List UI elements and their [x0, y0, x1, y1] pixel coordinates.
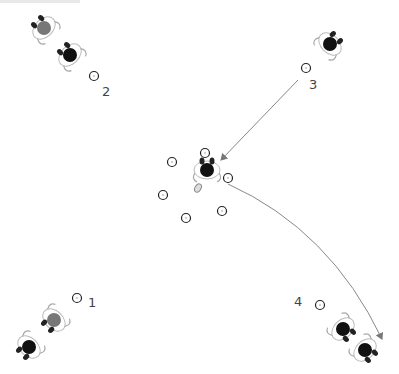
cone-icon	[302, 64, 311, 73]
cone-icon	[218, 207, 227, 216]
cone-icon	[224, 174, 233, 183]
player-icon	[36, 302, 73, 339]
player-icon	[347, 332, 384, 369]
player-icon	[312, 26, 349, 63]
run-arrow	[228, 184, 382, 339]
cone-icon	[316, 301, 325, 310]
player-icon	[11, 329, 48, 366]
player-icon	[193, 158, 220, 183]
player-icon	[325, 311, 362, 348]
player-icon	[52, 37, 89, 74]
cone-icon	[90, 72, 99, 81]
ball-icon	[193, 183, 203, 194]
cone-icon	[168, 158, 177, 167]
drill-field	[0, 0, 399, 374]
cone-icon	[73, 294, 82, 303]
cone-icon	[159, 191, 168, 200]
position-label-4: 4	[294, 295, 302, 308]
position-label-1: 1	[88, 296, 96, 309]
cone-icon	[201, 149, 210, 158]
cone-icon	[182, 214, 191, 223]
pass-arrow	[221, 80, 298, 160]
position-label-2: 2	[102, 85, 110, 98]
position-label-3: 3	[309, 78, 317, 91]
player-icon	[26, 10, 63, 47]
